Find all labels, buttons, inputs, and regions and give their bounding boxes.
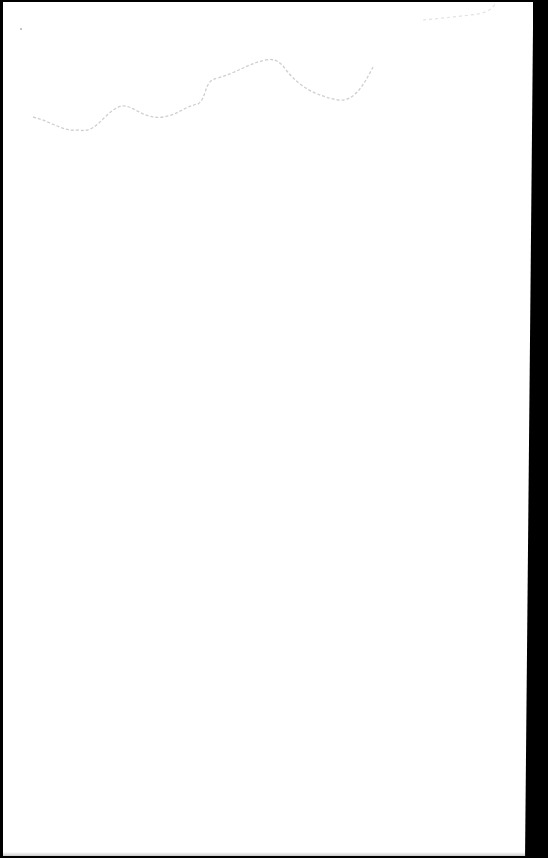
- page-bottom-edge: [3, 852, 533, 856]
- scanned-page: [3, 2, 533, 856]
- dust-speck: [20, 28, 22, 30]
- water-stain-mark: [3, 2, 533, 162]
